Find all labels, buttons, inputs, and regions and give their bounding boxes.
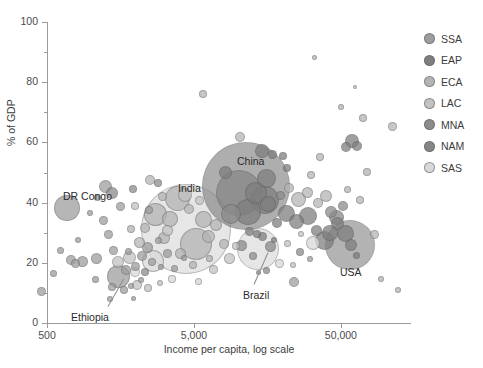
- bubble-point[interactable]: [378, 276, 384, 282]
- legend-item-lac[interactable]: LAC: [424, 93, 483, 115]
- bubble-point[interactable]: [181, 255, 187, 261]
- bubble-point[interactable]: [345, 239, 357, 251]
- bubble-point[interactable]: [325, 206, 337, 218]
- legend-item-mna[interactable]: MNA: [424, 114, 483, 136]
- bubble-point[interactable]: [120, 286, 128, 294]
- legend-item-sas[interactable]: SAS: [424, 157, 483, 179]
- bubble-point[interactable]: [148, 258, 156, 266]
- bubble-point[interactable]: [283, 164, 291, 172]
- bubble-point[interactable]: [395, 287, 401, 293]
- bubble-point[interactable]: [168, 275, 176, 283]
- bubble-point[interactable]: [290, 262, 296, 268]
- bubble-point[interactable]: [138, 277, 144, 283]
- bubble-point[interactable]: [144, 284, 152, 292]
- legend-item-nam[interactable]: NAM: [424, 136, 483, 158]
- bubble-point[interactable]: [184, 204, 194, 214]
- bubble-point[interactable]: [284, 240, 291, 247]
- bubble-point[interactable]: [171, 265, 178, 272]
- bubble-point[interactable]: [313, 198, 323, 208]
- bubble-point[interactable]: [75, 237, 81, 243]
- bubble-point[interactable]: [284, 183, 294, 193]
- bubble-point[interactable]: [279, 152, 287, 160]
- bubble-point[interactable]: [341, 142, 351, 152]
- bubble-point[interactable]: [370, 230, 379, 239]
- bubble-point[interactable]: [104, 230, 113, 239]
- bubble-point[interactable]: [131, 296, 136, 301]
- bubble-point[interactable]: [57, 247, 64, 254]
- bubble-point[interactable]: [141, 268, 149, 276]
- bubble-point[interactable]: [87, 210, 93, 216]
- bubble-point[interactable]: [158, 264, 164, 270]
- bubble-point[interactable]: [296, 248, 304, 256]
- bubble-point[interactable]: [128, 283, 134, 289]
- bubble-point[interactable]: [209, 265, 218, 274]
- bubble-point[interactable]: [388, 122, 397, 131]
- bubble-point[interactable]: [140, 223, 150, 233]
- bubble-point[interactable]: [71, 259, 80, 268]
- bubble-point[interactable]: [137, 251, 147, 261]
- bubble-point[interactable]: [344, 186, 351, 193]
- bubble-point[interactable]: [195, 278, 202, 285]
- bubble-point[interactable]: [331, 217, 344, 230]
- bubble-point[interactable]: [163, 249, 172, 258]
- bubble-point[interactable]: [232, 242, 240, 250]
- bubble-point[interactable]: [195, 211, 212, 228]
- bubble-point[interactable]: [92, 276, 99, 283]
- bubble-point[interactable]: [311, 225, 322, 236]
- bubble-point[interactable]: [158, 192, 167, 201]
- bubble-point[interactable]: [353, 85, 357, 89]
- bubble-point[interactable]: [306, 236, 320, 250]
- bubble-point[interactable]: [276, 191, 285, 200]
- bubble-point[interactable]: [206, 255, 213, 262]
- legend-item-ssa[interactable]: SSA: [424, 28, 483, 50]
- bubble-point[interactable]: [154, 179, 162, 187]
- legend-item-eap[interactable]: EAP: [424, 50, 483, 72]
- bubble-point[interactable]: [145, 206, 153, 214]
- bubble-point[interactable]: [37, 287, 46, 296]
- legend-item-eca[interactable]: ECA: [424, 71, 483, 93]
- bubble-point[interactable]: [263, 267, 270, 274]
- bubble-point[interactable]: [363, 168, 371, 176]
- bubble-point[interactable]: [108, 283, 116, 291]
- bubble-point[interactable]: [129, 185, 137, 193]
- bubble-point[interactable]: [289, 214, 304, 229]
- bubble-point[interactable]: [202, 230, 215, 243]
- bubble-point[interactable]: [50, 270, 57, 277]
- bubble-point[interactable]: [195, 196, 204, 205]
- bubble-point[interactable]: [125, 248, 132, 255]
- bubble-point[interactable]: [134, 237, 145, 248]
- bubble-point[interactable]: [131, 202, 139, 210]
- bubble-point[interactable]: [109, 246, 118, 255]
- bubble-point[interactable]: [272, 218, 282, 228]
- bubble-point[interactable]: [99, 216, 108, 225]
- bubble-point[interactable]: [219, 239, 229, 249]
- bubble-point[interactable]: [298, 231, 304, 237]
- bubble-point[interactable]: [127, 225, 135, 233]
- bubble-point[interactable]: [275, 259, 284, 268]
- bubble-point[interactable]: [359, 114, 367, 122]
- bubble-point[interactable]: [162, 225, 173, 236]
- bubble-point[interactable]: [224, 253, 235, 264]
- bubble-point[interactable]: [116, 202, 125, 211]
- bubble-point[interactable]: [257, 169, 276, 188]
- bubble-point[interactable]: [352, 141, 362, 151]
- bubble-point[interactable]: [316, 153, 324, 161]
- bubble-point[interactable]: [210, 219, 222, 231]
- bubble-point[interactable]: [155, 237, 162, 244]
- bubble-point[interactable]: [356, 196, 364, 204]
- bubble-point[interactable]: [253, 230, 261, 238]
- bubble-point[interactable]: [307, 256, 313, 262]
- bubble-point[interactable]: [199, 90, 207, 98]
- bubble-point[interactable]: [289, 277, 299, 287]
- bubble-point[interactable]: [260, 196, 276, 212]
- bubble-point[interactable]: [271, 237, 277, 243]
- bubble-point[interactable]: [302, 187, 313, 198]
- bubble-point[interactable]: [307, 171, 315, 179]
- bubble-point[interactable]: [268, 150, 277, 159]
- bubble-point[interactable]: [338, 104, 344, 110]
- bubble-point[interactable]: [249, 252, 257, 260]
- bubble-point[interactable]: [338, 201, 348, 211]
- bubble-point[interactable]: [221, 204, 241, 224]
- bubble-point[interactable]: [189, 261, 197, 269]
- bubble-point[interactable]: [235, 132, 245, 142]
